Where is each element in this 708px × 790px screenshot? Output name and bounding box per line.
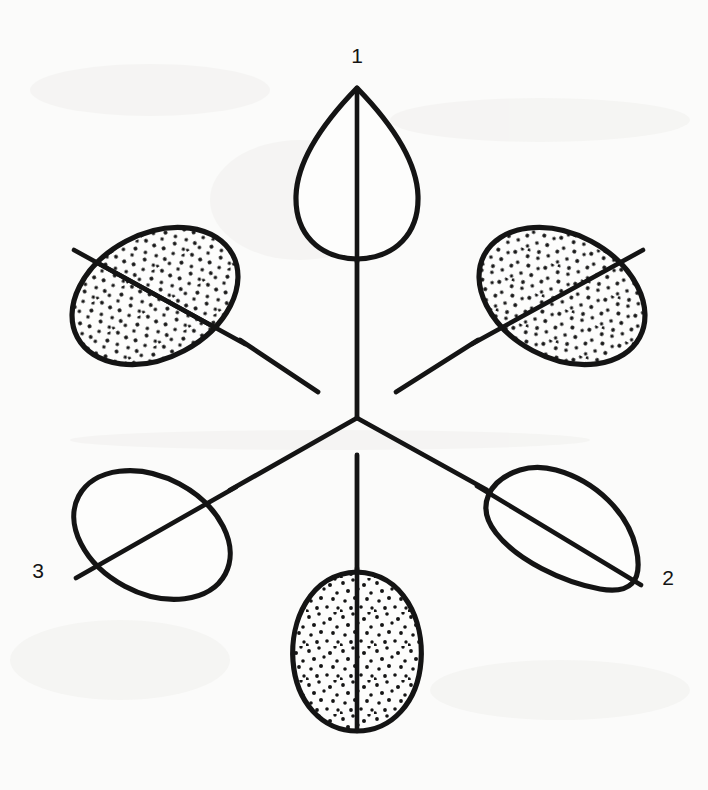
organ-bottom[interactable] bbox=[293, 568, 422, 731]
leaf-whorl-diagram: 1 2 3 bbox=[0, 0, 708, 790]
position-label-2: 2 bbox=[662, 566, 674, 589]
position-label-1: 1 bbox=[351, 44, 363, 67]
figure-root: 1 2 3 bbox=[0, 0, 708, 790]
position-label-3: 3 bbox=[32, 559, 44, 582]
